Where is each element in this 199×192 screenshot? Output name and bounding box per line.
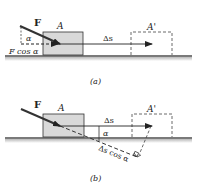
block-a xyxy=(43,114,84,137)
block-label: A xyxy=(57,103,65,113)
fcos-label: F cos α xyxy=(8,47,39,56)
force-label: F xyxy=(34,17,41,28)
figure-b: F A A' Δs α Δs cos α (b) xyxy=(5,99,192,183)
block-prime-label: A' xyxy=(146,104,156,114)
caption-b: (b) xyxy=(90,174,101,183)
displacement-label: Δs xyxy=(104,116,114,125)
ground-b xyxy=(5,137,192,139)
figure-a: F A A' α F cos α Δs (a) xyxy=(5,17,192,86)
caption-a: (a) xyxy=(90,77,101,86)
block-label: A xyxy=(56,21,64,31)
alpha-label: α xyxy=(103,129,109,138)
work-diagram: F A A' α F cos α Δs (a) F A A' xyxy=(0,0,199,192)
displacement-label: Δs xyxy=(103,34,113,43)
block-a-prime xyxy=(131,32,172,55)
block-a-prime xyxy=(132,114,172,137)
scos-label: Δs cos α xyxy=(97,144,130,164)
alpha-label: α xyxy=(26,34,32,43)
ground-shadow-a xyxy=(5,57,192,61)
block-prime-label: A' xyxy=(146,22,156,32)
force-label: F xyxy=(34,99,41,110)
